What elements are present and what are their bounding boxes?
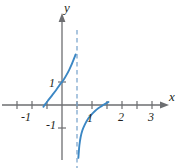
graph-figure: -1 1 2 3 1 -1 y x	[0, 0, 181, 168]
y-axis-label: y	[62, 0, 70, 15]
y-tick-label-neg1: -1	[46, 118, 56, 132]
x-axis-arrow-icon	[160, 102, 169, 109]
x-axis	[2, 102, 169, 109]
x-tick-label-3: 3	[147, 110, 154, 124]
x-axis-label: x	[168, 89, 175, 104]
plot-canvas: -1 1 2 3 1 -1 y x	[0, 0, 181, 168]
x-tick-label-1: 1	[87, 111, 93, 125]
x-tick-label-2: 2	[118, 110, 124, 124]
curve-right-branch	[78, 102, 108, 158]
y-tick-label-1: 1	[49, 76, 55, 90]
x-tick-label-neg1: -1	[21, 110, 31, 124]
